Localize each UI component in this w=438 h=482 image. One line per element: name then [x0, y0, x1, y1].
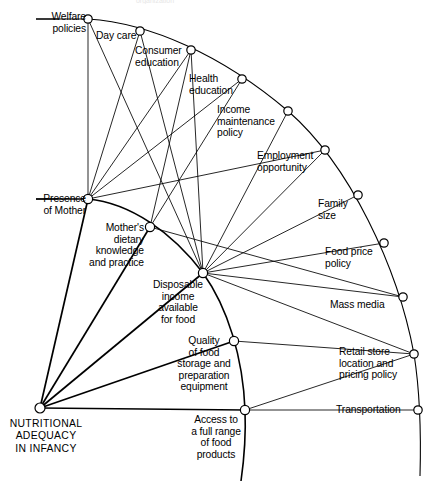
label-mothers-dietary-knowledge: Mother's dietary knowledge and practice	[24, 222, 144, 268]
node-disposable-income[interactable]	[198, 268, 207, 277]
label-health-education: Health education	[189, 73, 245, 96]
edge-day-care-to-presence-of-mother	[88, 31, 140, 199]
label-mass-media: Mass media	[330, 299, 402, 311]
edge-health-education-to-presence-of-mother	[88, 79, 242, 199]
edge-consumer-education-to-presence-of-mother	[88, 50, 191, 199]
label-quality-of-food: Quality of food storage and preparation …	[168, 335, 240, 393]
label-access-to-food: Access to a full range of food products	[180, 414, 252, 460]
label-day-care: Day care	[96, 30, 148, 42]
label-welfare-policies: Welfare policies	[28, 11, 86, 34]
edge-access-to-food-to-nutritional-adequacy	[40, 408, 245, 410]
node-mothers-dietary-knowledge[interactable]	[145, 222, 154, 231]
label-transportation: Transportation	[336, 404, 420, 416]
label-presence-of-mother: Presence of Mother	[28, 193, 86, 216]
label-disposable-income: Disposable income available for food	[141, 279, 215, 325]
label-retail-store: Retail store location and pricing policy	[339, 346, 419, 381]
label-employment-opportunity: Employment opportunity	[257, 150, 329, 173]
label-food-price-policy: Food price policy	[325, 246, 389, 269]
label-consumer-education: Consumer education	[135, 45, 195, 68]
label-nutritional-adequacy: NUTRITIONAL ADEQUACY IN INFANCY	[0, 418, 92, 455]
radial-determinants-diagram: organization	[0, 0, 438, 482]
label-income-maintenance: Income maintenance policy	[217, 104, 291, 139]
edge-mass-media-to-disposable-income	[203, 273, 403, 297]
edge-health-education-to-mothers-dietary-knowledge	[150, 79, 242, 227]
node-nutritional-adequacy[interactable]	[35, 403, 45, 413]
label-family-size: Family size	[318, 198, 362, 221]
cut-off-title-text: organization	[95, 0, 215, 4]
